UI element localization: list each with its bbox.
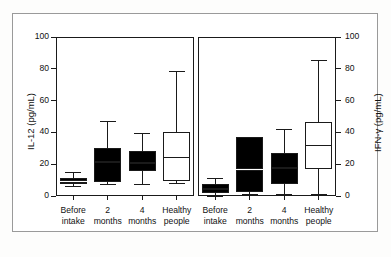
figure-canvas: 020406080100IL-12 (pg/mL)Before intake2 … xyxy=(0,0,391,257)
boxplot-right-0 xyxy=(202,179,228,196)
y-tick-label-right-100: 100 xyxy=(345,31,382,41)
boxplot-right-3 xyxy=(306,61,332,195)
boxplot-right-1 xyxy=(237,137,263,194)
y-tick-label-right-0: 0 xyxy=(345,190,382,200)
axis-title-right: IFN-γ (pg/mL) xyxy=(372,93,383,152)
y-tick-label-right-80: 80 xyxy=(345,63,382,73)
y-tick-label-right-20: 20 xyxy=(345,158,382,168)
x-category-label-right-3: Healthy people xyxy=(298,205,341,226)
boxplot-right-2 xyxy=(271,129,297,194)
